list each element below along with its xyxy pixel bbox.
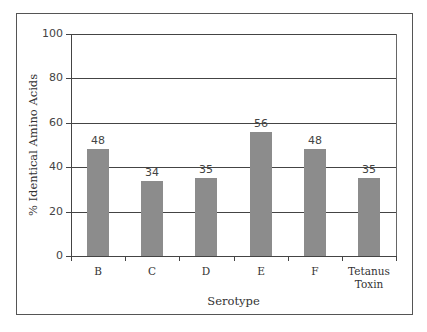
y-tick-label: 80 bbox=[33, 71, 63, 84]
x-category-label: C bbox=[125, 265, 179, 278]
y-axis bbox=[71, 34, 72, 261]
y-tick bbox=[66, 123, 71, 124]
gridline bbox=[71, 123, 396, 124]
y-tick-label: 60 bbox=[33, 116, 63, 129]
x-axis-title: Serotype bbox=[71, 294, 396, 308]
gridline bbox=[71, 167, 396, 168]
bar-b bbox=[87, 149, 109, 256]
y-tick bbox=[66, 167, 71, 168]
plot-area: 02040608010048B34C35D56E48F35TetanusToxi… bbox=[71, 34, 396, 256]
y-tick bbox=[66, 78, 71, 79]
bar-value-label: 34 bbox=[132, 166, 172, 179]
y-tick bbox=[66, 212, 71, 213]
x-category-label: E bbox=[234, 265, 288, 278]
x-category-label: TetanusToxin bbox=[342, 265, 396, 291]
bar-f bbox=[304, 149, 326, 256]
bar-tetanus-toxin bbox=[358, 178, 380, 256]
x-tick bbox=[71, 256, 72, 261]
x-category-label: B bbox=[71, 265, 125, 278]
gridline bbox=[71, 212, 396, 213]
y-tick-label: 100 bbox=[33, 27, 63, 40]
y-tick bbox=[66, 34, 71, 35]
x-category-label: F bbox=[288, 265, 342, 278]
y-tick-label: 0 bbox=[33, 249, 63, 262]
x-tick bbox=[342, 256, 343, 261]
x-tick bbox=[288, 256, 289, 261]
x-tick bbox=[179, 256, 180, 261]
gridline bbox=[71, 78, 396, 79]
plot-border-right bbox=[396, 34, 397, 256]
y-tick-label: 20 bbox=[33, 205, 63, 218]
bar-c bbox=[141, 181, 163, 256]
x-tick bbox=[396, 256, 397, 261]
bar-d bbox=[195, 178, 217, 256]
bar-value-label: 35 bbox=[186, 163, 226, 176]
y-axis-title: % Identical Amino Acids bbox=[26, 74, 40, 216]
x-tick bbox=[234, 256, 235, 261]
bar-value-label: 48 bbox=[295, 134, 335, 147]
x-tick bbox=[125, 256, 126, 261]
x-category-label: D bbox=[179, 265, 233, 278]
gridline bbox=[71, 34, 396, 35]
bar-value-label: 48 bbox=[78, 134, 118, 147]
bar-value-label: 35 bbox=[349, 163, 389, 176]
bar-value-label: 56 bbox=[241, 117, 281, 130]
bar-e bbox=[250, 132, 272, 256]
y-tick-label: 40 bbox=[33, 160, 63, 173]
